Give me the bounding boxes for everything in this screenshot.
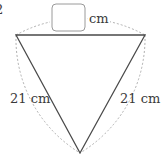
- left-side-label: 21 cm: [10, 91, 50, 106]
- right-side-label: 21 cm: [120, 91, 160, 106]
- answer-box[interactable]: [52, 4, 85, 31]
- question-number-fragment: 2: [0, 2, 3, 17]
- top-unit-label: cm: [89, 11, 109, 26]
- triangle-diagram: cm 21 cm 21 cm 2: [0, 0, 165, 167]
